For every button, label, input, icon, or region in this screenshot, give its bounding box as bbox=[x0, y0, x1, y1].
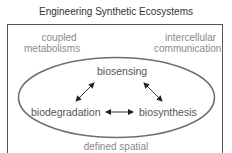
arrow-biosensing-biosynthesis bbox=[144, 83, 162, 101]
node-biosynthesis: biosynthesis bbox=[139, 106, 197, 118]
node-biodegradation: biodegradation bbox=[31, 106, 100, 118]
node-biosensing: biosensing bbox=[97, 65, 147, 77]
label-defined-spatial: defined spatial bbox=[0, 141, 232, 152]
arrow-biosensing-biodegradation bbox=[76, 83, 94, 101]
